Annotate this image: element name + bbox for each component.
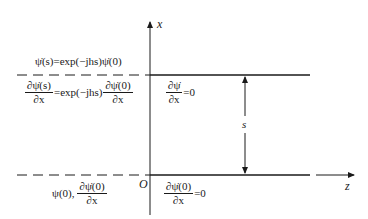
eq2-middle: =exp(−jhs) bbox=[54, 87, 102, 98]
bottom-right-fraction: ∂ψ̇(0) ∂x bbox=[164, 181, 193, 206]
top-right-fraction: ∂ψ̇ ∂x bbox=[166, 80, 182, 105]
origin-label: O bbox=[139, 178, 148, 190]
eq2-right-fraction: ∂ψ̇(0) ∂x bbox=[103, 80, 132, 105]
bottom-left-denominator: ∂x bbox=[87, 194, 98, 206]
bottom-left-fraction: ∂ψ̇(0) ∂x bbox=[77, 181, 106, 206]
top-right-numerator: ∂ψ̇ bbox=[166, 80, 182, 93]
eq2-right-denominator: ∂x bbox=[113, 93, 124, 105]
eq2-right-numerator: ∂ψ̇(0) bbox=[103, 80, 132, 93]
bottom-right-denominator: ∂x bbox=[173, 194, 184, 206]
bottom-right-rhs: =0 bbox=[194, 188, 206, 199]
bottom-right-eq: ∂ψ̇(0) ∂x =0 bbox=[164, 181, 207, 206]
top-left-eq2: ∂ψ̇(s) ∂x =exp(−jhs) ∂ψ̇(0) ∂x bbox=[25, 80, 134, 105]
eq2-left-numerator: ∂ψ̇(s) bbox=[25, 80, 53, 93]
z-axis-label: z bbox=[345, 180, 350, 192]
bottom-left-eq: ψ(0), ∂ψ̇(0) ∂x bbox=[52, 181, 108, 206]
eq2-left-fraction: ∂ψ̇(s) ∂x bbox=[25, 80, 53, 105]
top-left-eq1: ψ̇(s)=exp(−jhs)ψ̇(0) bbox=[35, 56, 122, 67]
bottom-right-numerator: ∂ψ̇(0) bbox=[164, 181, 193, 194]
top-right-rhs: =0 bbox=[183, 87, 195, 98]
top-right-eq: ∂ψ̇ ∂x =0 bbox=[166, 80, 196, 105]
eq2-left-denominator: ∂x bbox=[34, 93, 45, 105]
dimension-label: s bbox=[242, 119, 246, 130]
bottom-left-numerator: ∂ψ̇(0) bbox=[77, 181, 106, 194]
bottom-left-prefix: ψ(0), bbox=[52, 188, 74, 199]
top-right-denominator: ∂x bbox=[169, 93, 180, 105]
x-axis-label: x bbox=[157, 18, 162, 30]
